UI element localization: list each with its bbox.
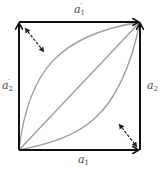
label-left: a2′	[2, 79, 10, 93]
label-left-prime: ′	[8, 78, 10, 86]
label-right: a2	[147, 80, 158, 93]
lower-right-double-arrow	[119, 124, 137, 147]
label-top-sub: 1	[81, 9, 85, 17]
label-top: a1′	[74, 3, 82, 17]
diagram	[0, 0, 163, 169]
upper-left-double-arrow	[25, 28, 44, 52]
label-bottom-sub: 1	[85, 159, 89, 167]
label-bottom: a1	[78, 154, 89, 167]
label-right-sub: 2	[154, 85, 158, 93]
label-top-prime: ′	[80, 2, 82, 10]
label-left-sub: 2	[9, 85, 13, 93]
